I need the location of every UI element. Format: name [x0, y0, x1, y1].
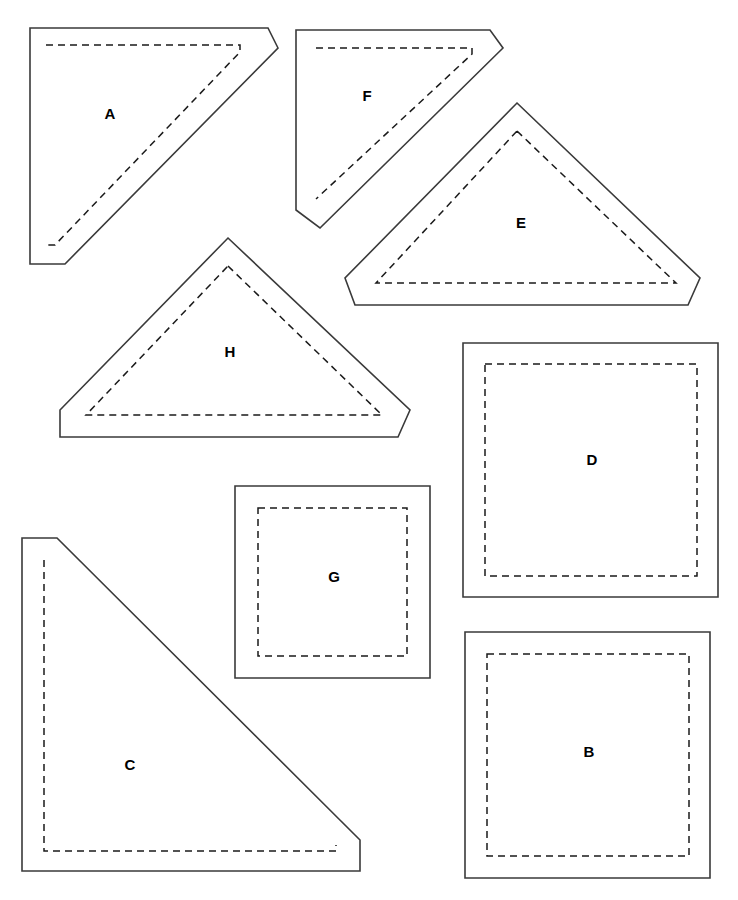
pattern-piece-d[interactable]: D — [463, 343, 718, 597]
piece-label-a: A — [105, 105, 116, 122]
pattern-piece-g[interactable]: G — [235, 486, 430, 678]
piece-label-b: B — [584, 743, 595, 760]
pattern-piece-b[interactable]: B — [465, 632, 710, 878]
piece-label-d: D — [587, 451, 598, 468]
piece-label-h: H — [225, 343, 236, 360]
piece-label-f: F — [362, 87, 371, 104]
pattern-canvas: A F E H D G — [0, 0, 738, 900]
piece-label-e: E — [516, 214, 526, 231]
piece-label-g: G — [328, 568, 340, 585]
cut-line-a — [30, 28, 278, 264]
cut-line-d — [463, 343, 718, 597]
piece-label-c: C — [125, 756, 136, 773]
pattern-piece-a[interactable]: A — [30, 28, 278, 264]
pattern-sheet: A F E H D G — [0, 0, 738, 900]
